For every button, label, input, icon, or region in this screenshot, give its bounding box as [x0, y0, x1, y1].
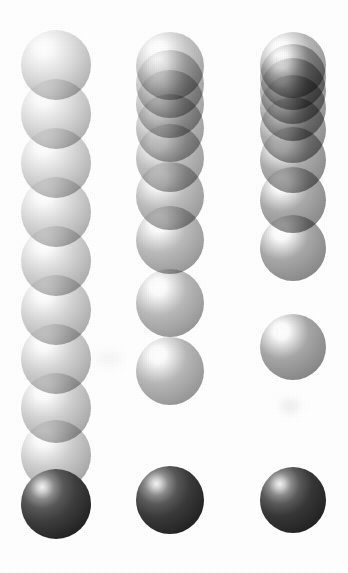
sphere: [136, 337, 204, 405]
sphere-column-1: [21, 0, 91, 573]
paper-smudge-left: [96, 352, 122, 366]
sphere-stack-figure: [0, 0, 348, 573]
sphere: [136, 269, 204, 337]
sphere: [136, 206, 204, 274]
sphere: [260, 314, 326, 380]
terminal-sphere: [260, 467, 326, 533]
terminal-sphere: [136, 466, 204, 534]
sphere: [260, 215, 326, 281]
sphere-column-2: [136, 0, 204, 573]
terminal-sphere: [21, 469, 91, 539]
sphere-column-3: [260, 0, 326, 573]
